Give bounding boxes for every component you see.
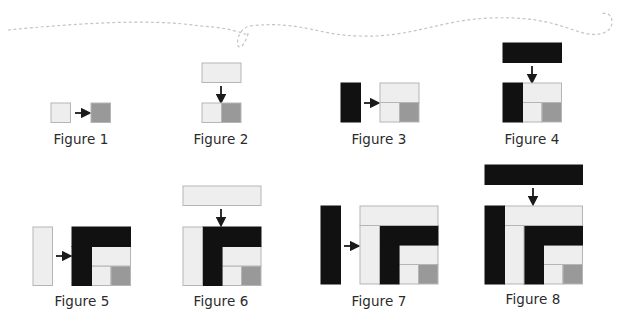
- light-square: [523, 103, 543, 123]
- medium-square: [242, 266, 262, 286]
- light-strip: [360, 206, 438, 226]
- light-strip: [222, 247, 261, 267]
- light-square: [222, 266, 242, 286]
- light-square: [92, 266, 112, 286]
- dashed-thread-line: [8, 13, 612, 47]
- dark-strip: [203, 247, 223, 286]
- light-strip: [360, 226, 380, 285]
- medium-square: [400, 103, 420, 123]
- medium-square: [419, 265, 439, 285]
- light-strip: [183, 186, 261, 206]
- dark-strip: [341, 83, 361, 122]
- light-square: [544, 265, 564, 285]
- medium-square: [222, 103, 242, 123]
- diagram-canvas: [0, 0, 629, 328]
- dark-strip: [321, 206, 341, 284]
- light-strip: [505, 206, 583, 226]
- medium-square: [91, 103, 111, 123]
- light-strip: [505, 226, 525, 285]
- dark-strip: [485, 206, 505, 284]
- light-strip: [183, 227, 203, 286]
- light-strip: [92, 247, 131, 267]
- light-strip: [33, 227, 53, 286]
- dark-strip: [203, 227, 262, 247]
- dark-strip: [503, 83, 523, 122]
- light-square: [51, 103, 71, 123]
- dark-strip: [72, 247, 92, 286]
- light-square: [380, 103, 400, 123]
- dark-strip: [503, 43, 562, 63]
- figure-label: Figure 4: [505, 131, 560, 147]
- medium-square: [111, 266, 131, 286]
- medium-square: [563, 265, 583, 285]
- dark-strip: [524, 226, 583, 246]
- light-square: [399, 265, 419, 285]
- light-strip: [544, 245, 583, 265]
- light-strip: [523, 83, 562, 103]
- dark-strip: [485, 165, 583, 185]
- figure-label: Figure 7: [352, 293, 407, 309]
- figure-label: Figure 1: [54, 131, 109, 147]
- light-strip: [380, 83, 419, 103]
- dark-strip: [380, 245, 400, 284]
- figure-label: Figure 2: [194, 131, 249, 147]
- figure-label: Figure 6: [194, 293, 249, 309]
- dark-strip: [524, 245, 544, 284]
- figure-label: Figure 3: [352, 131, 407, 147]
- figure-label: Figure 5: [55, 293, 110, 309]
- light-strip: [202, 63, 241, 83]
- light-square: [202, 103, 222, 123]
- medium-square: [542, 103, 562, 123]
- figure-label: Figure 8: [506, 291, 561, 307]
- light-strip: [399, 245, 438, 265]
- dark-strip: [380, 226, 439, 246]
- dark-strip: [72, 227, 131, 247]
